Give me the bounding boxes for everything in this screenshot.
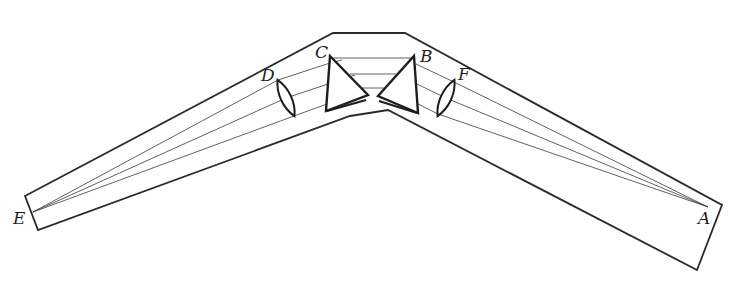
label-e: E <box>12 208 26 228</box>
ray-right-3b <box>438 114 708 207</box>
ray-right-2b <box>446 98 708 207</box>
housing-outline <box>25 33 722 270</box>
prism-c-shape <box>326 56 368 111</box>
ray-left-2 <box>33 98 286 212</box>
label-a: A <box>696 208 710 228</box>
ray-left-2b <box>286 84 328 98</box>
ray-left-3b <box>294 104 327 116</box>
ray-fan-left <box>33 60 355 212</box>
prism-c <box>326 56 368 111</box>
optical-diagram: E D C B F A <box>0 0 741 288</box>
prism-b <box>378 56 418 113</box>
ray-left-1 <box>33 80 278 212</box>
label-d: D <box>260 65 275 85</box>
ray-right-1b <box>454 82 708 207</box>
label-f: F <box>457 64 471 84</box>
lens-d-shape <box>273 78 299 119</box>
ray-right-1 <box>416 64 454 82</box>
lens-d <box>273 78 299 119</box>
prism-b-shape <box>378 56 418 113</box>
label-c: C <box>315 42 328 62</box>
label-b: B <box>419 46 433 66</box>
lens-f-shape <box>433 78 459 119</box>
ray-left-3 <box>33 116 294 212</box>
lens-f <box>433 78 459 119</box>
ray-right-3 <box>418 104 438 114</box>
diagram-canvas: E D C B F A <box>0 0 741 288</box>
ray-fan-right <box>416 64 708 207</box>
ray-left-1b <box>278 63 330 80</box>
